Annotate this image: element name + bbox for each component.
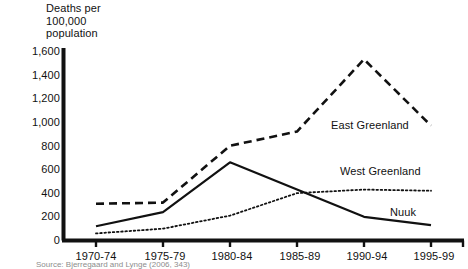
series-line-west-greenland — [96, 190, 431, 234]
plot-area — [0, 0, 468, 269]
line-chart: Deaths per 100,000 population 1,600 1,40… — [0, 0, 468, 269]
series-label-east-greenland: East Greenland — [331, 119, 409, 131]
series-label-west-greenland: West Greenland — [340, 165, 421, 177]
source-note: Source: Bjerregaard and Lynge (2006, 343… — [36, 260, 190, 269]
x-tick-1985-89: 1985-89 — [279, 250, 320, 262]
x-tick-1995-99: 1995-99 — [413, 250, 454, 262]
series-line-east-greenland — [96, 59, 431, 203]
series-label-nuuk: Nuuk — [390, 206, 416, 218]
x-tick-1990-94: 1990-94 — [346, 250, 387, 262]
x-tick-1980-84: 1980-84 — [211, 250, 252, 262]
